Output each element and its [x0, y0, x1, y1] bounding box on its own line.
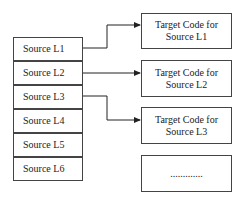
source-box-l6: Source L6	[13, 157, 83, 181]
source-box-l5: Source L5	[13, 133, 83, 157]
target-box-l1: Target Code for Source L1	[141, 13, 232, 49]
source-box-l4: Source L4	[13, 109, 83, 133]
target-box-ellipsis: .............	[141, 155, 232, 192]
target-box-l3: Target Code for Source L3	[141, 107, 232, 144]
source-box-l2: Source L2	[13, 61, 83, 85]
target-box-l2: Target Code for Source L2	[141, 60, 232, 97]
source-box-l3: Source L3	[13, 85, 83, 109]
source-box-l1: Source L1	[13, 37, 83, 61]
